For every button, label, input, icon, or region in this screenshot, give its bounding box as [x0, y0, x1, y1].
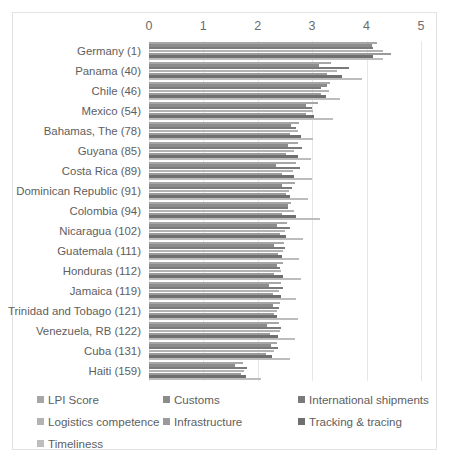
- bar-group: [149, 101, 421, 121]
- category-label: Guatemala (111): [57, 245, 141, 257]
- bar-group: [149, 201, 421, 221]
- legend-label: Customs: [174, 393, 220, 406]
- bar-group: [149, 81, 421, 101]
- category-label: Venezuela, RB (122): [36, 325, 141, 337]
- category-label: Mexico (54): [81, 105, 141, 117]
- bar-group: [149, 161, 421, 181]
- x-axis-tick-labels: 012345: [13, 19, 438, 37]
- gridline-5: [421, 41, 422, 381]
- legend-swatch-icon: [163, 396, 170, 403]
- bar-group: [149, 281, 421, 301]
- category-label: Germany (1): [77, 45, 141, 57]
- bar: [149, 378, 261, 380]
- category-label: Guyana (85): [78, 145, 141, 157]
- category-label: Nicaragua (102): [59, 225, 141, 237]
- chart-container: 012345 Germany (1)Panama (40)Chile (46)M…: [12, 12, 437, 450]
- legend-item: Logistics competence: [37, 415, 160, 428]
- legend-item: LPI Score: [37, 393, 99, 406]
- x-axis-tick-4: 4: [363, 19, 370, 33]
- bar-group: [149, 221, 421, 241]
- plot-area: [149, 41, 421, 381]
- y-axis-category-labels: Germany (1)Panama (40)Chile (46)Mexico (…: [13, 41, 145, 381]
- bar-group: [149, 181, 421, 201]
- legend-label: Infrastructure: [174, 415, 242, 428]
- category-label: Costa Rica (89): [62, 165, 141, 177]
- bar-group: [149, 261, 421, 281]
- legend-swatch-icon: [37, 396, 44, 403]
- category-label: Honduras (112): [63, 265, 141, 277]
- bar-group: [149, 301, 421, 321]
- bar-group: [149, 321, 421, 341]
- legend-item: Tracking & tracing: [298, 415, 402, 428]
- bar-group: [149, 141, 421, 161]
- bar-group: [149, 41, 421, 61]
- legend-label: Logistics competence: [48, 415, 160, 428]
- category-label: Cuba (131): [84, 345, 141, 357]
- legend-swatch-icon: [37, 418, 44, 425]
- x-axis-tick-2: 2: [254, 19, 261, 33]
- legend-label: LPI Score: [48, 393, 99, 406]
- chart-legend: LPI ScoreCustomsInternational shipmentsL…: [13, 387, 438, 449]
- x-axis-tick-5: 5: [417, 19, 424, 33]
- category-label: Dominican Republic (91): [16, 185, 141, 197]
- x-axis-tick-0: 0: [145, 19, 152, 33]
- category-label: Panama (40): [75, 65, 141, 77]
- bar-group: [149, 121, 421, 141]
- legend-item: Infrastructure: [163, 415, 242, 428]
- category-label: Colombia (94): [69, 205, 141, 217]
- category-label: Bahamas, The (78): [44, 125, 141, 137]
- legend-label: Timeliness: [48, 437, 103, 450]
- category-label: Jamaica (119): [70, 285, 141, 297]
- legend-swatch-icon: [298, 396, 305, 403]
- legend-item: International shipments: [298, 393, 429, 406]
- legend-swatch-icon: [37, 440, 44, 447]
- category-label: Chile (46): [92, 85, 141, 97]
- category-label: Trinidad and Tobago (121): [8, 305, 141, 317]
- legend-item: Timeliness: [37, 437, 103, 450]
- category-label: Haiti (159): [88, 365, 141, 377]
- legend-swatch-icon: [163, 418, 170, 425]
- x-axis-tick-3: 3: [309, 19, 316, 33]
- x-axis-tick-1: 1: [200, 19, 207, 33]
- bar-group: [149, 361, 421, 381]
- bar-group: [149, 241, 421, 261]
- legend-swatch-icon: [298, 418, 305, 425]
- bar-group: [149, 61, 421, 81]
- legend-label: International shipments: [309, 393, 429, 406]
- legend-item: Customs: [163, 393, 220, 406]
- legend-label: Tracking & tracing: [309, 415, 402, 428]
- bar-group: [149, 341, 421, 361]
